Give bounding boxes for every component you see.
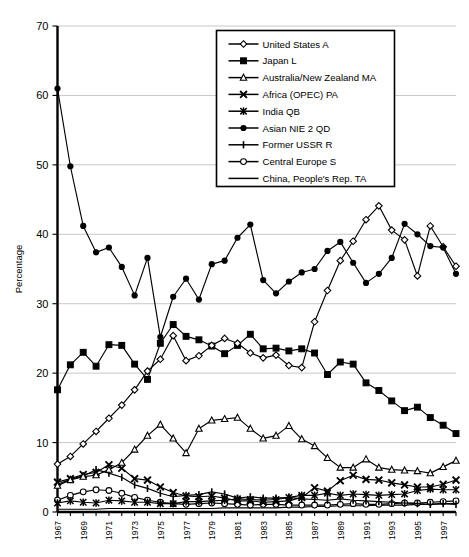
open-triangle-marker xyxy=(311,443,317,449)
marker-filled-square xyxy=(196,337,202,343)
marker-filled-circle xyxy=(222,258,228,264)
marker-cross-x xyxy=(337,477,344,484)
filled-square-marker xyxy=(241,58,247,64)
marker-filled-circle xyxy=(106,244,112,250)
marker-filled-square xyxy=(222,351,228,357)
marker-filled-square xyxy=(55,387,61,393)
marker-cross-x xyxy=(453,477,460,484)
legend-label: Australia/New Zealand MA xyxy=(263,72,377,83)
marker-open-triangle xyxy=(440,463,446,469)
marker-open-diamond xyxy=(183,357,190,364)
open-triangle-marker xyxy=(286,423,292,429)
marker-filled-square xyxy=(453,431,459,437)
filled-square-marker xyxy=(376,388,382,394)
open-diamond-marker xyxy=(337,257,344,264)
marker-filled-square xyxy=(170,322,176,328)
filled-square-marker xyxy=(260,346,266,352)
legend-label: China, People's Rep. TA xyxy=(263,173,367,184)
series-united-states-a xyxy=(54,203,459,468)
chart-container: 010203040506070Percentage196719691971197… xyxy=(0,0,469,557)
filled-circle-marker xyxy=(401,221,407,227)
marker-open-triangle xyxy=(311,443,317,449)
marker-filled-square xyxy=(260,346,266,352)
legend-label: India QB xyxy=(263,106,300,117)
legend-label: Africa (OPEC) PA xyxy=(263,89,339,100)
filled-circle-marker xyxy=(234,235,240,241)
y-axis-title: Percentage xyxy=(13,245,24,294)
filled-circle-marker xyxy=(119,264,125,270)
filled-square-marker xyxy=(337,359,343,365)
open-circle-marker xyxy=(241,159,247,165)
filled-circle-marker xyxy=(299,269,305,275)
filled-square-marker xyxy=(350,361,356,367)
marker-open-triangle xyxy=(363,456,369,462)
legend-item[interactable]: United States A xyxy=(229,39,330,50)
marker-filled-square xyxy=(67,362,73,368)
legend-label: United States A xyxy=(263,39,330,50)
x-tick-label: 1987 xyxy=(310,521,320,540)
filled-square-marker xyxy=(247,331,253,337)
filled-circle-marker xyxy=(67,163,73,169)
marker-open-diamond xyxy=(260,355,267,362)
open-triangle-marker xyxy=(157,421,163,427)
marker-filled-square xyxy=(247,331,253,337)
marker-filled-circle xyxy=(157,334,163,340)
filled-square-marker xyxy=(427,415,433,421)
filled-square-marker xyxy=(299,346,305,352)
series-africa-opec-pa xyxy=(54,461,459,505)
marker-filled-square xyxy=(157,340,163,346)
x-tick-label: 1993 xyxy=(387,521,397,540)
x-tick-label: 1969 xyxy=(79,521,89,540)
open-triangle-marker xyxy=(440,463,446,469)
filled-square-marker xyxy=(286,348,292,354)
marker-filled-circle xyxy=(80,223,86,229)
filled-circle-marker xyxy=(376,271,382,277)
marker-filled-circle xyxy=(363,280,369,286)
filled-circle-marker xyxy=(440,244,446,250)
marker-open-diamond xyxy=(298,364,305,371)
open-diamond-marker xyxy=(324,287,331,294)
marker-filled-circle xyxy=(119,264,125,270)
marker-open-triangle xyxy=(376,464,382,470)
open-triangle-marker xyxy=(196,425,202,431)
filled-circle-marker xyxy=(427,243,433,249)
filled-square-marker xyxy=(196,337,202,343)
open-triangle-marker xyxy=(376,464,382,470)
marker-open-triangle xyxy=(453,457,459,463)
marker-filled-circle xyxy=(389,255,395,261)
filled-circle-marker xyxy=(350,260,356,266)
x-tick-label: 1989 xyxy=(336,521,346,540)
filled-circle-marker xyxy=(286,278,292,284)
y-tick-label: 50 xyxy=(36,159,48,171)
legend-label: Japan L xyxy=(263,55,298,66)
marker-filled-circle xyxy=(183,276,189,282)
filled-square-marker xyxy=(273,345,279,351)
percentage-line-chart: 010203040506070Percentage196719691971197… xyxy=(0,0,469,557)
filled-square-marker xyxy=(157,340,163,346)
marker-open-diamond xyxy=(221,335,228,342)
marker-filled-square xyxy=(273,345,279,351)
marker-filled-square xyxy=(299,346,305,352)
marker-open-diamond xyxy=(54,461,61,468)
marker-filled-circle xyxy=(440,244,446,250)
marker-filled-square xyxy=(119,342,125,348)
filled-square-marker xyxy=(222,351,228,357)
marker-filled-circle xyxy=(427,243,433,249)
open-circle-marker xyxy=(80,489,86,495)
marker-open-circle xyxy=(119,490,125,496)
marker-filled-circle xyxy=(311,266,317,272)
marker-open-diamond xyxy=(350,238,357,245)
open-diamond-marker xyxy=(311,318,318,325)
filled-square-marker xyxy=(440,422,446,428)
filled-circle-marker xyxy=(240,125,246,131)
filled-square-marker xyxy=(183,333,189,339)
filled-square-marker xyxy=(55,387,61,393)
marker-open-diamond xyxy=(311,318,318,325)
marker-filled-circle xyxy=(286,278,292,284)
marker-open-triangle xyxy=(286,423,292,429)
marker-filled-circle xyxy=(170,294,176,300)
x-tick-label: 1983 xyxy=(259,521,269,540)
x-tick-label: 1979 xyxy=(207,521,217,540)
filled-circle-marker xyxy=(80,223,86,229)
marker-filled-square xyxy=(145,376,151,382)
